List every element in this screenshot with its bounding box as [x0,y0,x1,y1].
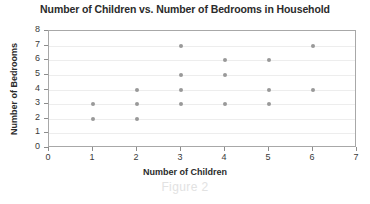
x-tick [224,147,225,151]
y-tick-label: 5 [26,68,40,78]
data-point [179,102,183,106]
x-axis-label: Number of Children [0,167,370,177]
data-point [179,88,183,92]
y-tick-label: 2 [26,112,40,122]
data-point [179,44,183,48]
x-tick [136,147,137,151]
gridline [49,133,355,134]
x-tick-label: 1 [80,152,104,162]
data-point [223,102,227,106]
data-point [91,117,95,121]
gridline [49,90,355,91]
y-tick [44,59,48,60]
data-point [135,102,139,106]
x-tick [180,147,181,151]
y-axis-label: Number of Bedrooms [9,29,19,149]
y-tick [44,132,48,133]
data-point [223,58,227,62]
data-point [267,88,271,92]
x-tick [48,147,49,151]
y-tick-label: 7 [26,39,40,49]
y-tick [44,147,48,148]
data-point [311,88,315,92]
x-tick-label: 5 [256,152,280,162]
data-point [267,102,271,106]
y-tick-label: 6 [26,53,40,63]
y-tick-label: 3 [26,97,40,107]
chart-title: Number of Children vs. Number of Bedroom… [0,3,370,15]
x-tick-label: 4 [212,152,236,162]
plot-area [48,30,356,147]
gridline [49,60,355,61]
x-tick-label: 0 [36,152,60,162]
y-tick [44,103,48,104]
x-tick [312,147,313,151]
data-point [179,73,183,77]
data-point [223,73,227,77]
data-point [267,58,271,62]
y-tick [44,30,48,31]
y-tick [44,89,48,90]
x-tick [356,147,357,151]
y-tick [44,118,48,119]
x-tick [268,147,269,151]
x-tick-label: 7 [344,152,368,162]
data-point [135,88,139,92]
gridline [49,46,355,47]
gridline [49,75,355,76]
data-point [135,117,139,121]
y-tick-label: 8 [26,24,40,34]
y-tick-label: 4 [26,83,40,93]
x-tick-label: 3 [168,152,192,162]
y-tick [44,45,48,46]
y-tick-label: 0 [26,141,40,151]
data-point [311,44,315,48]
x-tick-label: 6 [300,152,324,162]
y-tick-label: 1 [26,126,40,136]
figure-caption: Figure 2 [0,180,370,194]
x-tick [92,147,93,151]
scatter-plot-figure: Number of Children vs. Number of Bedroom… [0,0,370,204]
data-point [91,102,95,106]
x-tick-label: 2 [124,152,148,162]
y-tick [44,74,48,75]
